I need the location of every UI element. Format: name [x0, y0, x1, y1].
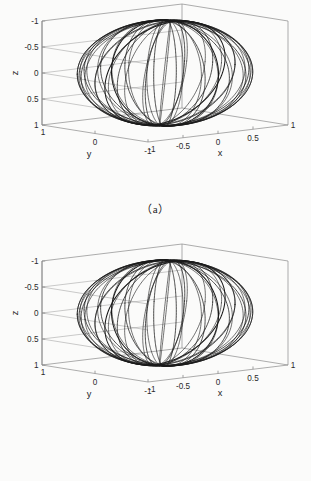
plot-3d-sphere-a: -1-0.500.51z10-1y-1-0.500.51x: [0, 0, 311, 200]
z-tick-label-1: -0.5: [24, 283, 39, 292]
z-tick-label-1: -0.5: [24, 43, 39, 52]
x-tick-label-1: -0.5: [176, 142, 191, 151]
z-tick-label-3: 0.5: [27, 335, 39, 344]
y-tick-label-1: 0: [93, 138, 98, 147]
x-tick-label-2: 0: [216, 378, 221, 387]
z-tick-label-0: -1: [31, 17, 39, 26]
gridline-left-z-2: [42, 339, 148, 356]
figure-panel-a: -1-0.500.51z10-1y-1-0.500.51x （a）: [0, 0, 311, 240]
y-tick-label-1: 0: [93, 378, 98, 387]
x-tick-label-0: -1: [148, 385, 156, 394]
ceiling-edge-back-right: [182, 244, 288, 261]
y-tick-label-0: 1: [41, 128, 46, 137]
z-axis-label: z: [10, 310, 20, 315]
x-tick-label-4: 1: [291, 121, 296, 130]
floor-edge-right-back: [182, 108, 288, 125]
gridline-left-z-2: [42, 99, 148, 116]
z-tick-label-4: 1: [34, 361, 39, 370]
plot-3d-sphere-b: -1-0.500.51z10-1y-1-0.500.51x: [0, 240, 311, 440]
caption-a: （a）: [0, 200, 311, 216]
z-axis-label: z: [10, 70, 20, 75]
gridline-back-z-2: [42, 322, 182, 339]
trajectory-band-0: [95, 261, 235, 365]
z-tick-label-2: 0: [34, 309, 39, 318]
gridline-back-z-2: [42, 82, 182, 99]
y-axis-label: y: [87, 149, 92, 159]
trajectory-orbit-1: [95, 21, 235, 126]
x-tick-label-3: 0.5: [247, 134, 259, 143]
z-tick-label-2: 0: [34, 69, 39, 78]
x-tick-label-3: 0.5: [247, 374, 259, 383]
y-axis-label: y: [87, 389, 92, 399]
ceiling-edge-left-back: [42, 4, 182, 21]
ceiling-edge-back-right: [182, 4, 288, 21]
trajectory-band-0: [95, 21, 235, 125]
figure-panel-b: -1-0.500.51z10-1y-1-0.500.51x （b）: [0, 240, 311, 480]
x-tick-label-1: -0.5: [176, 382, 191, 391]
floor-edge-right-back: [182, 348, 288, 365]
x-axis-label: x: [218, 388, 223, 398]
x-tick-label-0: -1: [148, 145, 156, 154]
z-tick-label-0: -1: [31, 257, 39, 266]
gridline-left-z-0: [42, 287, 148, 304]
x-tick-label-4: 1: [291, 361, 296, 370]
z-tick-label-3: 0.5: [27, 95, 39, 104]
y-tick-label-0: 1: [41, 368, 46, 377]
x-tick-label-2: 0: [216, 138, 221, 147]
x-axis-label: x: [218, 148, 223, 158]
gridline-left-z-0: [42, 47, 148, 64]
ceiling-edge-left-back: [42, 244, 182, 261]
z-tick-label-4: 1: [34, 121, 39, 130]
trajectory-orbit-1: [95, 261, 235, 366]
